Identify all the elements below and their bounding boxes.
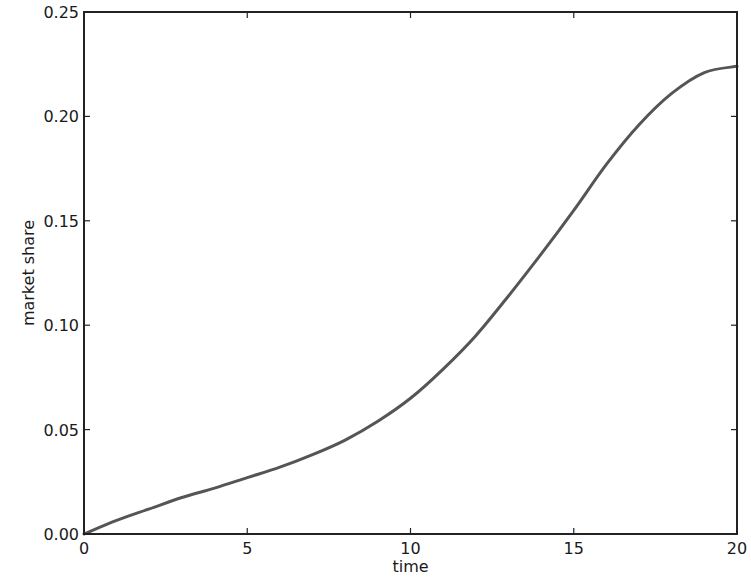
x-axis-label: time xyxy=(392,557,428,576)
y-axis-ticks: 0.000.050.100.150.200.25 xyxy=(43,3,737,544)
x-tick-label: 15 xyxy=(564,539,584,558)
x-tick-label: 10 xyxy=(400,539,420,558)
x-tick-label: 20 xyxy=(727,539,747,558)
y-tick-label: 0.25 xyxy=(43,3,79,22)
x-axis-ticks: 05101520 xyxy=(79,12,747,558)
y-tick-label: 0.20 xyxy=(43,107,79,126)
x-tick-label: 0 xyxy=(79,539,89,558)
y-tick-label: 0.10 xyxy=(43,316,79,335)
line-chart: 05101520 0.000.050.100.150.200.25 time m… xyxy=(0,0,751,587)
y-tick-label: 0.05 xyxy=(43,421,79,440)
axes-frame xyxy=(84,12,737,534)
market-share-line xyxy=(84,66,737,534)
y-tick-label: 0.15 xyxy=(43,212,79,231)
y-axis-label: market share xyxy=(19,220,38,326)
x-tick-label: 5 xyxy=(242,539,252,558)
y-tick-label: 0.00 xyxy=(43,525,79,544)
